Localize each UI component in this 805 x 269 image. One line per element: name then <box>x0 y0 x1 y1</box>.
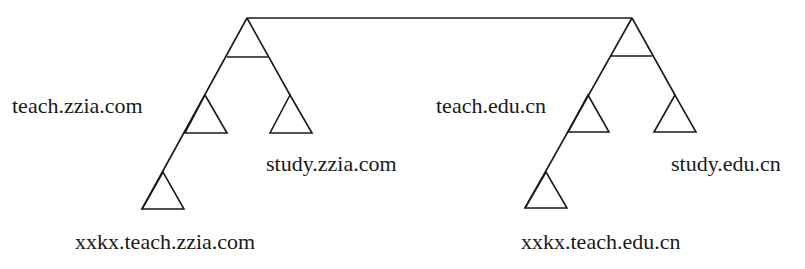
left-tree <box>142 18 312 209</box>
domain-tree-diagram: teach.zzia.com study.zzia.com xxkx.teach… <box>0 0 805 269</box>
left-study-triangle <box>270 95 312 133</box>
right-study-triangle <box>654 95 696 132</box>
label-study-zzia: study.zzia.com <box>266 153 397 175</box>
left-teach-triangle <box>185 95 227 133</box>
label-teach-edu: teach.edu.cn <box>436 95 546 117</box>
label-study-edu: study.edu.cn <box>671 153 781 175</box>
left-xxkx-triangle <box>142 172 184 209</box>
right-teach-triangle <box>568 95 609 132</box>
label-xxkx-edu: xxkx.teach.edu.cn <box>521 231 680 253</box>
right-tree <box>525 18 696 208</box>
label-xxkx-zzia: xxkx.teach.zzia.com <box>75 231 255 253</box>
label-teach-zzia: teach.zzia.com <box>12 95 143 117</box>
right-xxkx-triangle <box>525 172 567 208</box>
